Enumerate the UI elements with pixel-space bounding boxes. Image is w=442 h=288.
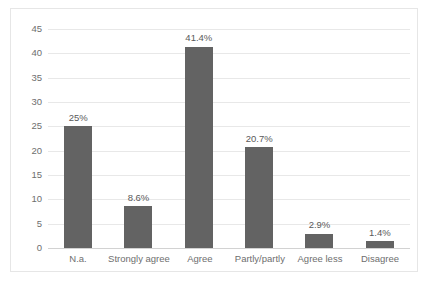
chart-frame: 051015202530354045 25%8.6%41.4%20.7%2.9%…: [10, 8, 418, 272]
bar-group: 20.7%: [229, 29, 289, 248]
x-axis-line: [48, 248, 410, 249]
bar-value-label: 8.6%: [128, 193, 150, 203]
bar-value-label: 2.9%: [309, 220, 331, 230]
x-axis-category-label: Agree less: [290, 254, 350, 264]
y-axis-tick-label: 20: [16, 146, 42, 156]
x-axis-category-label: Disagree: [350, 254, 410, 264]
bar-value-label: 41.4%: [185, 33, 212, 43]
bar[interactable]: [64, 126, 92, 248]
bar[interactable]: [366, 241, 394, 248]
bar[interactable]: [305, 234, 333, 248]
bar-group: 1.4%: [350, 29, 410, 248]
y-axis-tick-label: 35: [16, 73, 42, 83]
y-axis-tick-label: 10: [16, 195, 42, 205]
x-axis-category-label: Agree: [170, 254, 230, 264]
y-axis-tick-label: 0: [16, 243, 42, 253]
bar[interactable]: [124, 206, 152, 248]
y-axis-tick-labels: 051015202530354045: [11, 29, 42, 248]
bar-value-label: 20.7%: [246, 134, 273, 144]
y-axis-tick-label: 30: [16, 97, 42, 107]
y-axis-tick-label: 40: [16, 49, 42, 59]
y-axis-tick-label: 25: [16, 122, 42, 132]
x-axis-category-label: N.a.: [48, 254, 108, 264]
y-axis-tick-label: 5: [16, 219, 42, 229]
x-axis-category-label: Strongly agree: [108, 254, 170, 264]
bar-value-label: 25%: [69, 113, 88, 123]
y-axis-tick-label: 45: [16, 24, 42, 34]
bar-group: 41.4%: [169, 29, 229, 248]
bar[interactable]: [185, 47, 213, 248]
bars-container: 25%8.6%41.4%20.7%2.9%1.4%: [48, 29, 410, 248]
x-axis-tick-labels: N.a.Strongly agreeAgreePartly/partlyAgre…: [48, 254, 410, 264]
bar-value-label: 1.4%: [369, 228, 391, 238]
bar[interactable]: [245, 147, 273, 248]
bar-group: 2.9%: [289, 29, 349, 248]
y-axis-tick-label: 15: [16, 170, 42, 180]
x-axis-category-label: Partly/partly: [230, 254, 290, 264]
bar-group: 8.6%: [108, 29, 168, 248]
bar-group: 25%: [48, 29, 108, 248]
